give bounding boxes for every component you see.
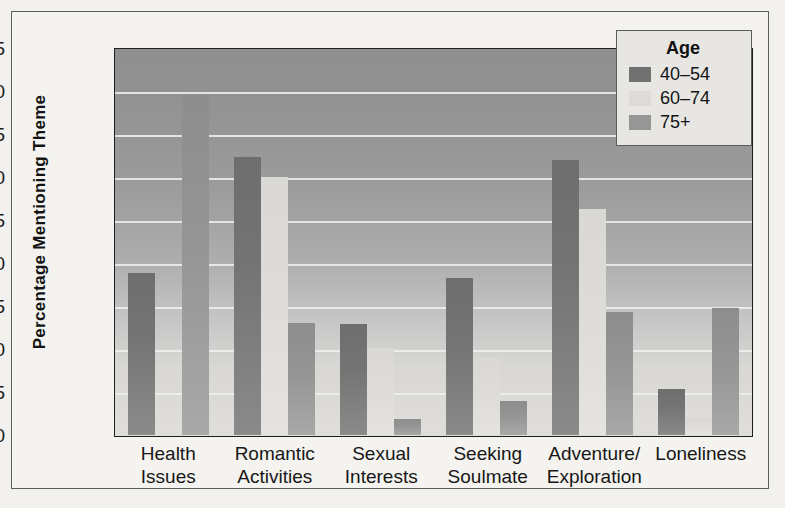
bar[interactable]	[685, 418, 712, 435]
x-axis-tick-label-line: Soulmate	[435, 465, 542, 488]
legend-swatch	[629, 91, 651, 106]
x-axis-tick-label: SeekingSoulmate	[435, 442, 542, 488]
y-axis-tick-label: 30	[0, 167, 5, 189]
x-axis-tick-label-line: Adventure/	[541, 442, 648, 465]
bar[interactable]	[606, 312, 633, 435]
legend-swatch	[629, 115, 651, 130]
bar[interactable]	[446, 278, 473, 435]
x-axis-tick-label-line: Activities	[222, 465, 329, 488]
x-axis-tick-label-line: Romantic	[222, 442, 329, 465]
x-axis-tick-label-line: Exploration	[541, 465, 648, 488]
x-axis-tick-label-line: Loneliness	[648, 442, 755, 465]
y-axis-tick-label: 10	[0, 339, 5, 361]
legend-title: Age	[629, 38, 737, 59]
x-axis-tick-label-line: Seeking	[435, 442, 542, 465]
legend: Age 40–5460–7475+	[616, 30, 752, 146]
y-axis-tick-label: 40	[0, 81, 5, 103]
bar-group	[116, 50, 222, 435]
bar[interactable]	[579, 209, 606, 435]
bar[interactable]	[155, 433, 182, 435]
bar[interactable]	[473, 358, 500, 435]
bar[interactable]	[552, 160, 579, 435]
x-axis-category-labels: HealthIssuesRomanticActivitiesSexualInte…	[115, 442, 754, 488]
x-axis-tick-label-line: Health	[115, 442, 222, 465]
bar[interactable]	[182, 94, 209, 435]
bar[interactable]	[367, 348, 394, 435]
y-axis-tick-label: 0	[0, 425, 5, 447]
x-axis-tick-label: Loneliness	[648, 442, 755, 488]
y-axis-tick-label: 15	[0, 296, 5, 318]
x-axis-tick-label: HealthIssues	[115, 442, 222, 488]
y-axis-tick-label: 45	[0, 38, 5, 60]
bar[interactable]	[394, 419, 421, 435]
y-axis-tick-label: 5	[0, 382, 5, 404]
bar[interactable]	[261, 177, 288, 435]
legend-entry-label: 75+	[660, 112, 691, 133]
x-axis-tick-label-line: Interests	[328, 465, 435, 488]
x-axis-tick-label-line: Sexual	[328, 442, 435, 465]
bar-group	[328, 50, 434, 435]
legend-entry-label: 40–54	[660, 64, 710, 85]
legend-entry[interactable]: 40–54	[629, 64, 737, 85]
y-axis-tick-label: 25	[0, 210, 5, 232]
bar[interactable]	[712, 308, 739, 435]
bar[interactable]	[340, 324, 367, 435]
y-axis-tick-label: 20	[0, 253, 5, 275]
bar-group	[222, 50, 328, 435]
x-axis-tick-label: Adventure/Exploration	[541, 442, 648, 488]
bar-group	[433, 50, 539, 435]
bar[interactable]	[658, 389, 685, 435]
bar[interactable]	[288, 323, 315, 435]
bar[interactable]	[128, 273, 155, 435]
figure-frame: Percentage Mentioning Theme 051015202530…	[11, 11, 769, 489]
x-axis-tick-label: SexualInterests	[328, 442, 435, 488]
legend-swatch	[629, 67, 651, 82]
x-axis-tick-label-line: Issues	[115, 465, 222, 488]
legend-entry-label: 60–74	[660, 88, 710, 109]
legend-entries: 40–5460–7475+	[629, 64, 737, 133]
legend-entry[interactable]: 75+	[629, 112, 737, 133]
x-axis-tick-label: RomanticActivities	[222, 442, 329, 488]
legend-entry[interactable]: 60–74	[629, 88, 737, 109]
bar[interactable]	[500, 401, 527, 435]
y-axis-tick-label: 35	[0, 124, 5, 146]
bar[interactable]	[234, 157, 261, 435]
